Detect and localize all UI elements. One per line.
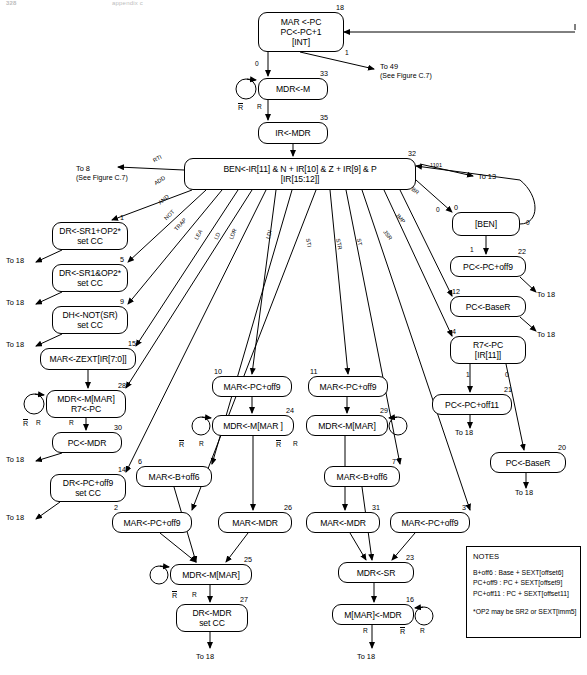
not-r-glyph: R	[400, 627, 405, 636]
state-number-1: 1	[120, 214, 124, 222]
goto-label-to-18[interactable]: To 18	[455, 428, 473, 437]
state-line: set CC	[75, 488, 101, 498]
goto-label-to-18[interactable]: To 18	[515, 488, 533, 497]
edge-label: R	[293, 440, 298, 447]
state-node-27[interactable]: DR<-MDRset CC	[176, 604, 248, 632]
state-node-10[interactable]: MAR<-PC+off9	[212, 376, 292, 397]
state-line: PC<-BaseR	[506, 458, 551, 468]
state-line: BEN<-IR[11] & N + IR[10] & Z + IR[9] & P	[223, 164, 376, 174]
state-number-0: 0	[454, 204, 458, 212]
state-node-23[interactable]: MDR<-SR	[338, 562, 414, 583]
state-number-5: 5	[120, 256, 124, 264]
state-node-7[interactable]: MAR<-B+off6	[324, 466, 400, 487]
edge-label: 1	[470, 246, 474, 253]
state-line: [BEN]	[475, 219, 497, 229]
state-node-21[interactable]: PC<-PC+off11	[432, 394, 512, 415]
edge-label: R	[420, 627, 425, 634]
edge-label: R	[69, 419, 74, 426]
goto-label-to-18[interactable]: To 18	[537, 290, 555, 299]
state-node-11[interactable]: MAR<-PC+off9	[308, 376, 388, 397]
state-node-1[interactable]: DR<-SR1+OP2*set CC	[52, 222, 128, 250]
state-line: PC<-MDR	[68, 438, 107, 448]
state-number-32: 32	[408, 150, 416, 158]
state-node-24[interactable]: MDR<-M[MAR ]	[212, 415, 294, 436]
state-line: MDR<-M[MAR]	[182, 570, 239, 580]
state-node-18[interactable]: MAR <-PCPC<-PC+1[INT]	[258, 12, 344, 52]
state-node-32[interactable]: BEN<-IR[11] & N + IR[10] & Z + IR[9] & P…	[184, 158, 416, 190]
opcode-label-sti: STI	[305, 238, 312, 248]
goto-label-to-18[interactable]: To 18	[6, 513, 24, 522]
state-node-33[interactable]: MDR<-M	[258, 78, 328, 100]
state-line: MAR <-PC	[281, 17, 322, 27]
state-number-22: 22	[518, 248, 526, 256]
state-line: MAR<-ZEXT[IR[7:0]]	[49, 354, 126, 364]
state-node-4[interactable]: R7<-PC[IR[11]]	[450, 336, 526, 364]
goto-target: To 18	[6, 513, 24, 522]
not-r-glyph: R	[276, 440, 281, 449]
goto-target: To 18	[537, 290, 555, 299]
state-line: MAR<-PC+off9	[320, 382, 377, 392]
state-line: MAR<-PC+off9	[402, 518, 459, 528]
state-node-2[interactable]: MAR<-PC+off9	[112, 512, 192, 533]
state-node-9[interactable]: DH<-NOT(SR)set CC	[52, 306, 128, 334]
state-node-5[interactable]: DR<-SR1&OP2*set CC	[52, 264, 128, 292]
state-line: [INT]	[292, 37, 310, 47]
goto-label-to-18[interactable]: To 18	[6, 298, 24, 307]
state-number-11: 11	[310, 368, 317, 376]
state-node-30[interactable]: PC<-MDR	[52, 432, 122, 453]
state-line: [IR[11]]	[475, 350, 501, 360]
state-line: DR<-MDR	[192, 608, 231, 618]
state-number-28: 28	[118, 382, 126, 390]
goto-subtext: (See Figure C.7)	[380, 71, 432, 80]
state-number-20: 20	[558, 444, 566, 452]
state-node-0[interactable]: [BEN]	[452, 212, 520, 236]
state-node-29[interactable]: MDR<-M[MAR]	[306, 415, 388, 436]
state-line: MDR<-SR	[357, 568, 396, 578]
opcode-label-1101: 1101	[430, 162, 442, 168]
state-node-15[interactable]: MAR<-ZEXT[IR[7:0]]	[40, 348, 136, 370]
goto-subtext: (See Figure C.7)	[76, 173, 128, 182]
not-r-glyph: R	[172, 591, 177, 600]
state-line: PC<-BaseR	[466, 302, 511, 312]
state-node-16[interactable]: M[MAR]<-MDR	[332, 604, 414, 625]
edge-label: 0	[505, 371, 509, 378]
state-line: DR<-SR1+OP2*	[59, 226, 120, 236]
goto-label-to-13[interactable]: To 13	[478, 172, 496, 181]
goto-label-to-18[interactable]: To 18	[6, 256, 24, 265]
state-line: MDR<-M	[276, 84, 310, 94]
state-node-12[interactable]: PC<-BaseR	[450, 296, 526, 317]
state-node-3[interactable]: MAR<-PC+off9	[390, 512, 470, 533]
state-line: MAR<-MDR	[320, 518, 366, 528]
state-node-20[interactable]: PC<-BaseR	[490, 452, 566, 473]
state-number-23: 23	[406, 554, 414, 562]
state-line: MDR<-M[MAR ]	[223, 421, 283, 431]
notes-title: NOTES	[473, 552, 574, 563]
edge-label: R	[36, 419, 41, 426]
state-line: set CC	[77, 278, 103, 288]
goto-target: To 18	[6, 298, 24, 307]
state-number-9: 9	[120, 298, 124, 306]
state-number-27: 27	[240, 596, 248, 604]
state-line: R7<-PC	[71, 404, 101, 414]
state-node-26[interactable]: MAR<-MDR	[218, 512, 292, 533]
goto-label-to-18[interactable]: To 18	[6, 455, 24, 464]
goto-label-to-49[interactable]: To 49(See Figure C.7)	[380, 62, 432, 80]
state-node-35[interactable]: IR<-MDR	[258, 122, 328, 144]
state-node-14[interactable]: DR<-PC+off9set CC	[50, 474, 126, 502]
state-node-28[interactable]: MDR<-M[MAR]R7<-PC	[46, 390, 126, 418]
state-node-22[interactable]: PC<-PC+off9	[450, 256, 526, 277]
not-r-glyph: R	[238, 103, 243, 112]
state-node-6[interactable]: MAR<-B+off6	[136, 466, 212, 487]
not-r-label: R	[172, 591, 177, 600]
edge-label: 1	[466, 371, 470, 378]
edge-label: 1	[345, 49, 349, 56]
goto-label-to-18[interactable]: To 18	[537, 330, 555, 339]
goto-label-to-8[interactable]: To 8(See Figure C.7)	[76, 164, 128, 182]
state-node-31[interactable]: MAR<-MDR	[306, 512, 380, 533]
state-node-25[interactable]: MDR<-M[MAR]	[170, 564, 252, 585]
goto-label-to-18[interactable]: To 18	[6, 340, 24, 349]
goto-label-to-18[interactable]: To 18	[357, 652, 375, 661]
goto-label-to-18[interactable]: To 18	[196, 652, 214, 661]
not-r-label: R	[179, 440, 184, 449]
goto-target: To 8	[76, 164, 90, 173]
